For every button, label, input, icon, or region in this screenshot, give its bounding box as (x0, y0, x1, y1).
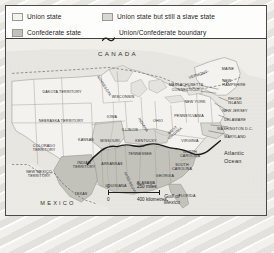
scale-miles-start: 0 (107, 184, 110, 189)
legend-item-union-state: Union state (12, 13, 96, 21)
legend-swatch-confederate-state (12, 29, 23, 37)
legend-row-2: Confederate state Union/Confederate boun… (12, 26, 266, 39)
scale-miles-end: 250 miles (137, 184, 157, 189)
map-frame: CANADAMEXICOAtlantic OceanGulf of Mexico… (5, 5, 267, 216)
scale-km-end: 400 kilometres (137, 197, 167, 202)
map-legend: Union state Union state but still a slav… (6, 6, 266, 39)
legend-label-union-state: Union state (27, 13, 61, 20)
legend-item-union-slave-state: Union state but still a slave state (102, 13, 215, 21)
legend-swatch-union-slave-state (102, 13, 113, 21)
scale-row-miles: 0 250 miles (107, 184, 189, 194)
legend-item-confederate-state: Confederate state (12, 29, 96, 37)
legend-row-1: Union state Union state but still a slav… (12, 10, 266, 23)
scale-tick-line (108, 192, 160, 193)
scale-row-km: 0 400 kilometres (107, 197, 189, 207)
legend-label-boundary: Union/Confederate boundary (119, 29, 206, 36)
legend-label-confederate-state: Confederate state (27, 29, 81, 36)
wavy-line-icon (102, 29, 115, 37)
scale-km-start: 0 (107, 197, 110, 202)
legend-swatch-union-state (12, 13, 23, 21)
kentucky-area (123, 129, 171, 145)
legend-label-union-slave-state: Union state but still a slave state (117, 13, 215, 20)
legend-item-boundary: Union/Confederate boundary (102, 29, 206, 37)
scale-bar: 0 250 miles 0 400 kilometres (107, 184, 189, 206)
